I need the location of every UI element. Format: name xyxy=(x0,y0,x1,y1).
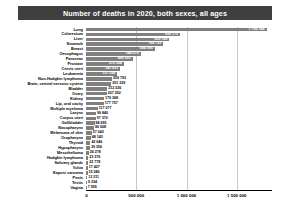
bar[interactable] xyxy=(86,176,87,180)
bar[interactable] xyxy=(86,171,88,175)
bar-container: 179 368 xyxy=(86,97,118,101)
bar[interactable] xyxy=(86,97,104,101)
bar-value-label: 117 077 xyxy=(99,107,112,111)
bar-rows: Lung1 796 144Colorectum935 173Liver830 1… xyxy=(0,27,283,190)
bar-category-label: Penis xyxy=(0,176,83,180)
bar-value-label: 97 370 xyxy=(97,117,108,121)
bar-value-label: 7 995 xyxy=(88,186,97,190)
bar[interactable] xyxy=(86,121,95,125)
bar-category-label: Vagina xyxy=(0,186,83,190)
bar[interactable] xyxy=(86,141,90,145)
bar-value-label: 177 757 xyxy=(105,102,118,106)
bar[interactable] xyxy=(86,161,88,165)
bar-row[interactable]: Vagina7 995 xyxy=(0,185,283,190)
bar[interactable] xyxy=(86,156,88,160)
bar[interactable] xyxy=(86,77,112,81)
bar-value-label: 9 334 xyxy=(88,181,97,185)
bar-chart: Number of deaths in 2020, both sexes, al… xyxy=(0,0,283,212)
bar[interactable] xyxy=(86,92,107,96)
chart-title-bar: Number of deaths in 2020, both sexes, al… xyxy=(18,6,272,20)
bar-value-label: 212 536 xyxy=(108,87,121,91)
bar[interactable] xyxy=(86,136,91,140)
bar[interactable] xyxy=(86,117,96,121)
bar[interactable] xyxy=(86,151,89,155)
bar-category-label: Bladder xyxy=(0,87,83,91)
bar-container: 935 173 xyxy=(86,33,194,37)
bar-container: 9 334 xyxy=(86,181,97,185)
bar[interactable] xyxy=(86,102,104,106)
bar-container: 99 840 xyxy=(86,112,108,116)
bar-value-label: 15 086 xyxy=(89,171,100,175)
bar-category-label: Testis xyxy=(0,181,83,185)
bar[interactable] xyxy=(86,181,87,185)
bar-container: 1 796 144 xyxy=(86,28,283,32)
bar-container: 212 536 xyxy=(86,87,121,91)
bar-value-label: 17 427 xyxy=(89,166,100,170)
x-tick-label: 0 xyxy=(85,193,87,198)
bar-value-label: 13 211 xyxy=(88,176,99,180)
bar-container: 15 086 xyxy=(86,171,100,175)
bar-container: 97 370 xyxy=(86,117,108,121)
x-axis-line xyxy=(86,190,272,191)
bar[interactable] xyxy=(86,186,87,190)
x-axis-tick-labels: 0500 0001 000 0001 500 000 xyxy=(86,193,272,205)
bar-category-label: Colorectum xyxy=(0,32,83,36)
bar-container: 207 252 xyxy=(86,92,121,96)
bar-value-label: 99 840 xyxy=(97,112,108,116)
bar-category-label: Lip, oral cavity xyxy=(0,102,83,106)
bar-value-label: 179 368 xyxy=(105,97,118,101)
bar[interactable] xyxy=(86,107,98,111)
bar[interactable] xyxy=(86,112,96,116)
bar-value-label: 1 796 144 xyxy=(249,28,267,32)
x-tick-label: 500 000 xyxy=(128,193,144,198)
bar-container: 13 211 xyxy=(86,176,99,180)
bar-category-label: Kaposi sarcoma xyxy=(0,171,83,175)
x-tick-label: 1 000 000 xyxy=(177,193,197,198)
bar-value-label: 207 252 xyxy=(108,92,121,96)
bar-container: 7 995 xyxy=(86,186,97,190)
bar-container: 177 757 xyxy=(86,102,118,106)
page-title: Number of deaths in 2020, both sexes, al… xyxy=(63,9,227,18)
bar-category-label: Salivary glands xyxy=(0,161,83,165)
bar-category-label: Kidney xyxy=(0,97,83,101)
bar[interactable] xyxy=(86,131,92,135)
bar[interactable] xyxy=(86,166,88,170)
bar-container: 830 180 xyxy=(86,38,183,42)
bar-container: 117 077 xyxy=(86,107,112,111)
x-tick-label: 1 500 000 xyxy=(227,193,247,198)
bar[interactable] xyxy=(86,87,107,91)
bar-container: 768 793 xyxy=(86,42,177,46)
bar-value-label: 684 996 xyxy=(140,47,155,51)
